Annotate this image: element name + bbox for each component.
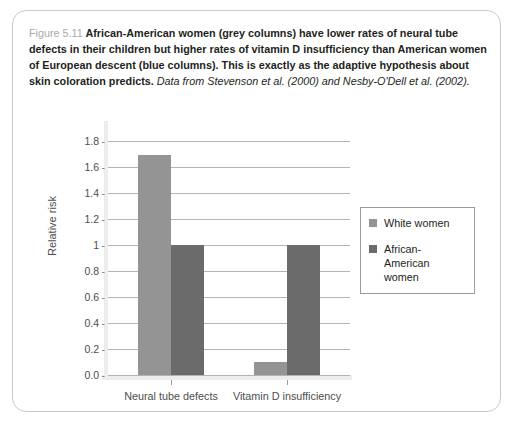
bar-chart: Relative risk -0.0-0.2-0.4-0.6-0.8-1-1.2… xyxy=(13,121,500,411)
y-axis-tick-mark: - xyxy=(102,265,106,277)
figure-card: Figure 5.11 African-American women (grey… xyxy=(12,10,501,412)
bar xyxy=(254,362,287,375)
x-axis-tick-label: Vitamin D insufficiency xyxy=(222,389,352,404)
y-axis-tick-mark: - xyxy=(102,187,106,199)
gridline xyxy=(108,141,350,142)
y-axis-tick-label: 1.6 xyxy=(84,161,99,173)
y-axis-tick-label: 0.2 xyxy=(84,343,99,355)
figure-number: Figure 5.11 xyxy=(29,27,83,39)
y-axis-tick-mark: - xyxy=(102,135,106,147)
plot-area: -0.0-0.2-0.4-0.6-0.8-1-1.2-1.4-1.6-1.8 xyxy=(108,141,350,375)
y-axis-tick-mark: - xyxy=(102,343,106,355)
y-axis-tick-mark: - xyxy=(102,369,106,381)
x-axis-tick-label: Neural tube defects xyxy=(106,389,236,404)
y-axis-tick-mark: - xyxy=(102,317,106,329)
y-axis-tick-label: 1.2 xyxy=(84,213,99,225)
gridline xyxy=(108,375,350,376)
legend-swatch-icon xyxy=(369,245,377,253)
bar xyxy=(138,155,171,375)
y-axis-title: Relative risk xyxy=(46,196,58,256)
y-axis-tick-label: 0.0 xyxy=(84,369,99,381)
chart-legend: White womenAfrican-American women xyxy=(360,207,475,294)
y-axis-tick-label: 0.4 xyxy=(84,317,99,329)
y-axis-tick-label: 1 xyxy=(93,239,99,251)
y-axis-tick-label: 1.8 xyxy=(84,135,99,147)
legend-item-label: White women xyxy=(384,216,449,230)
legend-item: White women xyxy=(369,216,466,230)
y-axis-tick-mark: - xyxy=(102,161,106,173)
figure-caption: Figure 5.11 African-American women (grey… xyxy=(29,25,487,89)
bar xyxy=(171,245,204,375)
y-axis-tick-mark: - xyxy=(102,239,106,251)
y-axis-tick-label: 0.6 xyxy=(84,291,99,303)
x-axis-tick-mark xyxy=(287,380,288,385)
legend-item-label: African-American women xyxy=(384,242,466,284)
y-axis-tick-mark: - xyxy=(102,291,106,303)
y-axis-tick-mark: - xyxy=(102,213,106,225)
y-axis-tick-label: 1.4 xyxy=(84,187,99,199)
x-axis-tick-mark xyxy=(171,380,172,385)
caption-source: Data from Stevenson et al. (2000) and Ne… xyxy=(157,75,470,87)
y-axis-tick-label: 0.8 xyxy=(84,265,99,277)
legend-swatch-icon xyxy=(369,219,377,227)
bar xyxy=(287,245,320,375)
legend-item: African-American women xyxy=(369,242,466,284)
